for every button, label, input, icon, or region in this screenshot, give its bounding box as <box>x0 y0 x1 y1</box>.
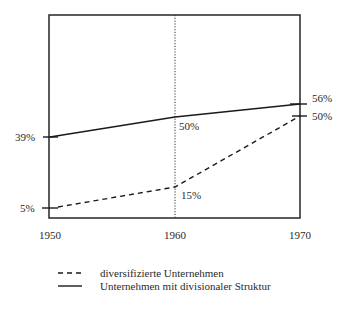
legend-label-divisional: Unternehmen mit divisionaler Struktur <box>100 280 271 292</box>
label-dashed-1950: 5% <box>20 202 35 214</box>
x-tick-1950: 1950 <box>39 229 62 241</box>
label-dashed-1960: 15% <box>181 189 201 201</box>
chart-svg: 39% 50% 56% 5% 15% 50% 1950 1960 1970 di… <box>0 0 348 310</box>
label-solid-1950: 39% <box>15 131 35 143</box>
series-divisional-structure <box>50 104 300 137</box>
label-dashed-1970: 50% <box>312 110 332 122</box>
label-solid-1970: 56% <box>312 92 332 104</box>
x-tick-1970: 1970 <box>289 229 312 241</box>
label-solid-1960: 50% <box>179 120 199 132</box>
x-tick-1960: 1960 <box>164 229 187 241</box>
legend: diversifizierte Unternehmen Unternehmen … <box>58 267 271 292</box>
legend-label-diversified: diversifizierte Unternehmen <box>100 267 224 279</box>
